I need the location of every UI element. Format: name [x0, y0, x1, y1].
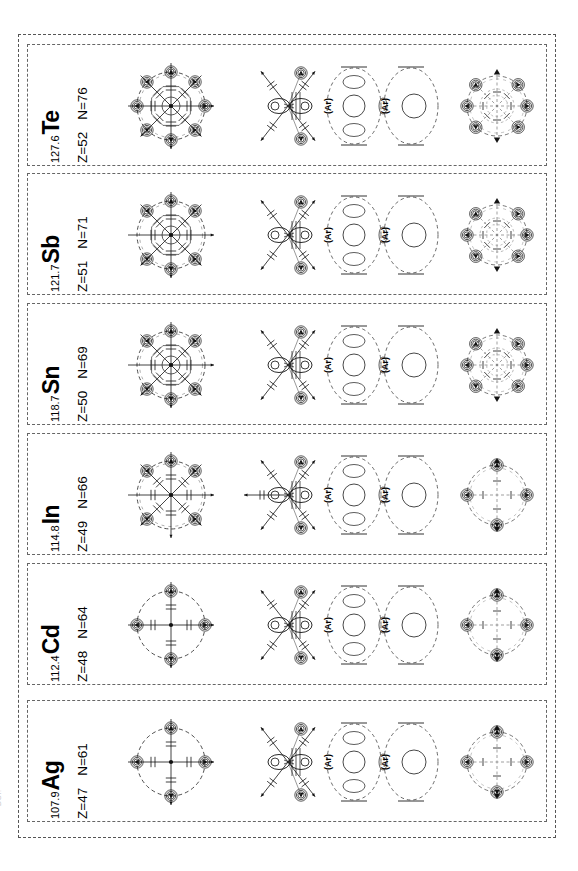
core-shell-label: (Ar) [380, 617, 390, 633]
element-panel: 118.7SnZ=50N=69(Ar)(Ar) [27, 303, 547, 425]
outer-shell-plan-diagram [106, 47, 236, 165]
outer-shell-plan-diagram [106, 436, 236, 554]
outer-shell-plan-diagram [106, 176, 236, 294]
outer-shell-plan-diagram [106, 703, 236, 821]
atomic-mass: 118.7 [49, 395, 61, 422]
neutron-number: N=66 [75, 476, 90, 509]
element-panel: 112.4CdZ=48N=64(Ar)(Ar) [27, 563, 547, 685]
element-symbol: Cd [40, 625, 63, 655]
shell-projection-diagram [448, 436, 546, 554]
element-symbol: Sn [40, 366, 63, 394]
neutron-number: N=61 [75, 743, 90, 776]
element-panel: 114.8InZ=49N=66(Ar)(Ar) [27, 433, 547, 555]
element-panel: 127.6TeZ=52N=76(Ar)(Ar) [27, 44, 547, 166]
element-label-block: 107.9AgZ=47N=61 [28, 701, 102, 823]
orbital-lobe-core-diagram: (Ar)(Ar) [236, 176, 446, 294]
element-symbol: Te [40, 110, 63, 134]
core-shell-label: (Ar) [323, 357, 333, 373]
element-symbol: Sb [40, 235, 63, 263]
core-shell-label: (Ar) [380, 357, 390, 373]
orbital-lobe-core-diagram: (Ar)(Ar) [236, 566, 446, 684]
element-label-block: 118.7SnZ=50N=69 [28, 304, 102, 426]
neutron-number: N=76 [75, 87, 90, 120]
core-shell-label: (Ar) [323, 98, 333, 114]
edge-caption: DOI: [0, 716, 2, 806]
shell-projection-diagram [448, 306, 546, 424]
shell-projection-diagram [448, 47, 546, 165]
core-shell-label: (Ar) [323, 754, 333, 770]
proton-number: Z=52 [75, 132, 90, 163]
core-shell-label: (Ar) [323, 487, 333, 503]
shell-projection-diagram [448, 703, 546, 821]
core-shell-label: (Ar) [380, 227, 390, 243]
atomic-mass: 112.4 [49, 655, 61, 682]
element-panel: 107.9AgZ=47N=61(Ar)(Ar) [27, 700, 547, 822]
core-shell-label: (Ar) [323, 617, 333, 633]
element-label-block: 112.4CdZ=48N=64 [28, 564, 102, 686]
element-label-block: 127.6TeZ=52N=76 [28, 45, 102, 167]
shell-projection-diagram [448, 176, 546, 294]
atomic-mass: 121.7 [49, 264, 61, 292]
element-label-block: 114.8InZ=49N=66 [28, 434, 102, 556]
neutron-number: N=71 [75, 216, 90, 249]
neutron-number: N=64 [75, 606, 90, 639]
core-shell-label: (Ar) [323, 227, 333, 243]
proton-number: Z=49 [75, 521, 90, 552]
element-symbol: In [40, 505, 63, 524]
element-label-block: 121.7SbZ=51N=71 [28, 174, 102, 296]
shell-projection-diagram [448, 566, 546, 684]
proton-number: Z=48 [75, 651, 90, 682]
orbital-lobe-core-diagram: (Ar)(Ar) [236, 306, 446, 424]
orbital-lobe-core-diagram: (Ar)(Ar) [236, 703, 446, 821]
orbital-lobe-core-diagram: (Ar)(Ar) [236, 436, 446, 554]
proton-number: Z=50 [75, 391, 90, 422]
outer-shell-plan-diagram [106, 566, 236, 684]
proton-number: Z=51 [75, 261, 90, 292]
atomic-mass: 127.6 [49, 135, 61, 163]
outer-shell-plan-diagram [106, 306, 236, 424]
proton-number: Z=47 [75, 788, 90, 819]
neutron-number: N=69 [75, 346, 90, 379]
core-shell-label: (Ar) [380, 754, 390, 770]
element-symbol: Ag [40, 761, 63, 791]
atomic-mass: 114.8 [49, 525, 61, 552]
orbital-lobe-core-diagram: (Ar)(Ar) [236, 47, 446, 165]
element-panel: 121.7SbZ=51N=71(Ar)(Ar) [27, 173, 547, 295]
atomic-mass: 107.9 [49, 791, 61, 819]
core-shell-label: (Ar) [380, 98, 390, 114]
core-shell-label: (Ar) [380, 487, 390, 503]
